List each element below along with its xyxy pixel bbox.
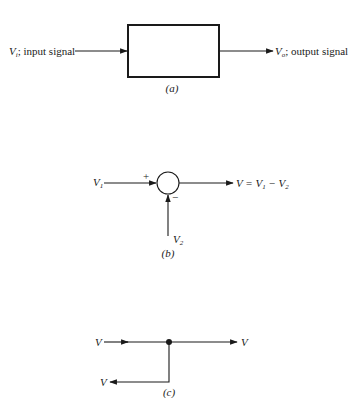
input-label-c: V (95, 336, 103, 348)
input-signal-label: Vi; input signal (9, 45, 75, 59)
output-equation: V = V1 − V2 (236, 177, 289, 191)
caption-b: (b) (162, 247, 175, 260)
input1-label: V1 (93, 176, 103, 190)
panel-a: Vi; input signal Vo; output signal (a) (9, 25, 348, 95)
output-signal-label: Vo; output signal (275, 45, 348, 59)
panel-c: V V V (c) (95, 336, 249, 398)
output-right-label: V (241, 336, 249, 348)
caption-c: (c) (163, 386, 176, 398)
minus-sign: − (172, 191, 178, 203)
plus-sign: + (143, 170, 149, 182)
system-block (128, 25, 219, 77)
input2-label: V2 (173, 233, 184, 247)
panel-b: V1 + − V = V1 − V2 V2 (b) (93, 170, 289, 260)
block-diagram-canvas: Vi; input signal Vo; output signal (a) V… (0, 0, 362, 398)
output-branch-label: V (100, 376, 108, 388)
caption-a: (a) (166, 82, 179, 95)
branch-arrow (110, 342, 169, 382)
